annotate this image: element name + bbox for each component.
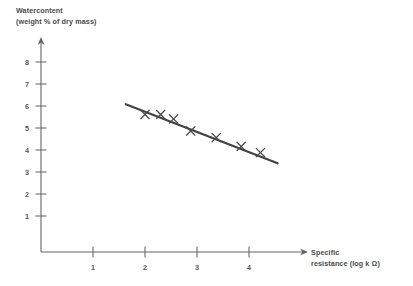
x-axis-tick-labels: 1 2 3 4 (91, 263, 251, 272)
trend-line (126, 104, 278, 163)
y-tick-label: 7 (25, 80, 29, 89)
y-tick-label: 8 (25, 58, 29, 67)
y-axis (38, 37, 45, 252)
x-tick-label: 2 (143, 263, 147, 272)
x-axis (41, 249, 308, 256)
data-point-marker (256, 148, 264, 156)
y-tick-label: 3 (25, 168, 29, 177)
y-tick-label: 5 (25, 124, 29, 133)
y-tick-label: 4 (25, 146, 29, 155)
y-tick-label: 6 (25, 102, 29, 111)
y-tick-label: 1 (25, 212, 29, 221)
plot-area: 8 7 6 5 4 3 2 1 1 2 3 4 (0, 0, 413, 286)
x-tick-label: 3 (195, 263, 199, 272)
y-tick-label: 2 (25, 190, 29, 199)
chart-figure: Watercontent(weight % of dry mass) Speci… (0, 0, 413, 286)
x-tick-label: 1 (91, 263, 95, 272)
y-axis-tick-labels: 8 7 6 5 4 3 2 1 (25, 58, 29, 221)
x-tick-label: 4 (247, 263, 251, 272)
